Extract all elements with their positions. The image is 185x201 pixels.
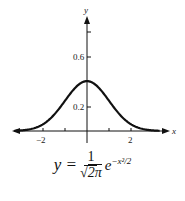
x-tick-label-neg2: −2 — [36, 135, 46, 145]
formula-exponent: −x²/2 — [111, 156, 131, 166]
formula-exp: e−x²/2 — [105, 156, 131, 174]
y-tick-label-0.6: 0.6 — [73, 52, 85, 62]
formula-denominator: 2π — [88, 164, 102, 180]
x-axis-arrow-right-icon — [162, 128, 170, 134]
y-axis-label: y — [83, 5, 88, 15]
formula-lhs: y = — [54, 155, 77, 175]
formula-fraction: 1 √2π — [80, 150, 102, 180]
formula-denominator-wrap: √2π — [80, 166, 102, 181]
formula: y = 1 √2π e−x²/2 — [0, 150, 185, 180]
x-tick-label-2: 2 — [128, 135, 133, 145]
y-axis-arrow-up-icon — [84, 16, 90, 24]
y-tick-label-0.2: 0.2 — [73, 102, 84, 112]
x-axis-label: x — [171, 126, 176, 136]
